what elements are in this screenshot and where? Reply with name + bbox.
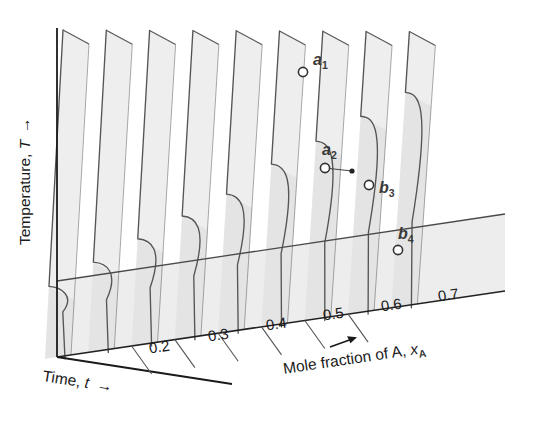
point-marker-a1: [298, 67, 307, 76]
point-label-letter: a: [322, 141, 331, 158]
y-axis-arrow-icon: →: [16, 117, 33, 133]
point-marker-b3: [364, 180, 373, 189]
x-axis-tick-label: 0.7: [437, 285, 460, 305]
time-axis-arrow-icon: →: [96, 376, 114, 395]
point-label-subscript: 1: [322, 59, 328, 71]
y-axis-label-text: Temperature,: [16, 149, 33, 245]
x-axis-label: Mole fraction of A, xA: [282, 339, 427, 380]
y-axis-label: Temperature, T→: [16, 117, 33, 245]
x-axis-label-subscript: A: [418, 347, 428, 360]
point-label-letter: b: [398, 225, 408, 242]
tick-leader-line: [305, 320, 325, 348]
svg-text:Time, t→: Time, t→: [42, 367, 114, 395]
point-label-subscript: 2: [331, 149, 337, 161]
figure-container: a1a2b3b4 Temperature, T→ Time, t→ Mole f…: [0, 0, 552, 432]
x-axis-tick-label: 0.5: [322, 304, 345, 324]
svg-text:Mole fraction of A, xA: Mole fraction of A, xA: [282, 339, 427, 380]
svg-text:Temperature, T→: Temperature, T→: [16, 117, 33, 245]
point-marker-a2: [320, 163, 329, 172]
tie-line-dot-marker: [349, 168, 354, 173]
y-axis-label-var: T: [16, 138, 33, 149]
x-axis-tick-label: 0.6: [380, 295, 403, 315]
x-axis-tick-label: 0.4: [265, 314, 288, 334]
x-axis-arrow-icon: [330, 336, 357, 347]
time-axis-label: Time, t→: [42, 367, 114, 395]
point-label-subscript: 3: [389, 187, 395, 199]
point-marker-b4: [393, 245, 402, 254]
point-label-letter: a: [313, 51, 322, 68]
x-axis-tick-label: 0.3: [207, 325, 230, 345]
point-label-subscript: 4: [408, 233, 414, 245]
tick-leader-line: [175, 340, 195, 368]
point-label-letter: b: [379, 179, 389, 196]
time-axis-label-text: Time,: [42, 367, 87, 390]
x-axis-label-text: Mole fraction of A,: [282, 341, 411, 377]
x-axis-tick-label: 0.2: [148, 337, 171, 357]
cooling-curve-3d-figure: a1a2b3b4 Temperature, T→ Time, t→ Mole f…: [0, 0, 552, 432]
